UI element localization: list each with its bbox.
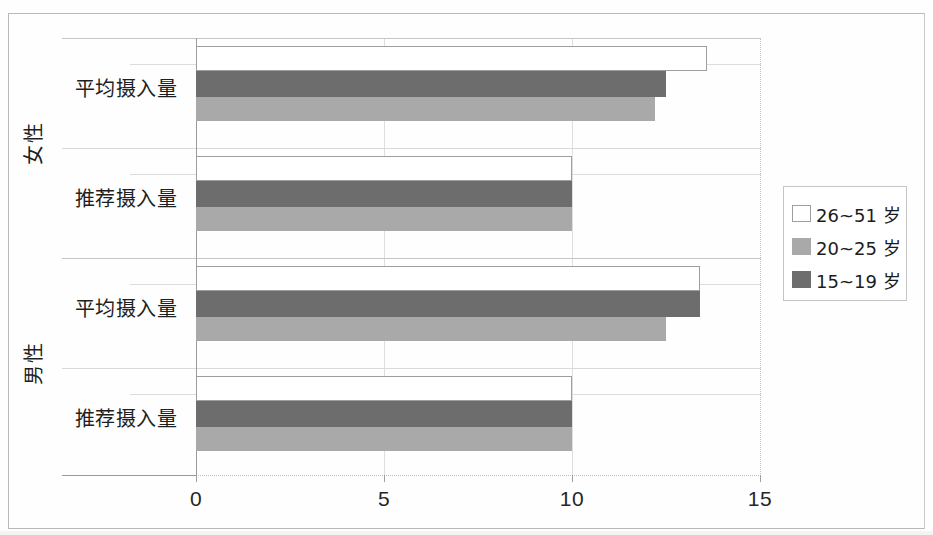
legend-label-26-51: 26~51 岁 (816, 201, 901, 227)
plot-right-border (760, 38, 761, 476)
category-label-male-average: 平均摄入量 (60, 293, 192, 322)
x-tick-label-0: 0 (166, 487, 226, 511)
bar-male-average-20-25 (196, 317, 666, 341)
bar-female-average-26-51 (196, 46, 707, 71)
chart-legend: 26~51 岁 20~25 岁 15~19 岁 (783, 186, 907, 301)
x-tick-label-10: 10 (542, 487, 602, 511)
bar-male-recommended-20-25 (196, 427, 572, 451)
x-tick-label-15: 15 (730, 487, 790, 511)
bar-chart-figure: 平均摄入量 推荐摄入量 平均摄入量 推荐摄入量 女性 男性 0 5 10 15 … (0, 0, 933, 535)
bar-male-recommended-15-19 (196, 401, 572, 427)
legend-swatch-icon-20-25 (792, 238, 811, 255)
legend-item-20-25: 20~25 岁 (792, 230, 906, 263)
category-label-male-recommended: 推荐摄入量 (60, 403, 192, 432)
x-tick-10 (572, 475, 573, 482)
legend-item-15-19: 15~19 岁 (792, 263, 906, 296)
category-separator-gender (62, 258, 761, 259)
bar-female-average-15-19 (196, 71, 666, 97)
bar-male-average-26-51 (196, 266, 700, 291)
bar-female-recommended-20-25 (196, 207, 572, 231)
bar-female-recommended-26-51 (196, 156, 572, 181)
category-separator-2 (62, 368, 761, 369)
x-axis-line (62, 475, 196, 476)
x-tick-0 (196, 475, 197, 482)
bar-female-average-20-25 (196, 97, 655, 121)
legend-swatch-icon-26-51 (792, 205, 811, 222)
legend-swatch-icon-15-19 (792, 271, 811, 288)
plot-bottom-border (196, 475, 761, 476)
x-tick-15 (760, 475, 761, 482)
group-label-male: 男性 (18, 293, 47, 433)
scan-bottom-edge (0, 531, 933, 535)
group-label-female: 女性 (18, 73, 47, 213)
bar-male-average-15-19 (196, 291, 700, 317)
x-tick-5 (384, 475, 385, 482)
category-separator-top (62, 38, 761, 39)
category-separator-1 (62, 148, 761, 149)
category-label-female-recommended: 推荐摄入量 (60, 183, 192, 212)
bar-female-recommended-15-19 (196, 181, 572, 207)
figure-frame-right-edge (924, 13, 925, 529)
bar-male-recommended-26-51 (196, 376, 572, 401)
category-label-female-average: 平均摄入量 (60, 73, 192, 102)
x-tick-label-5: 5 (354, 487, 414, 511)
legend-item-26-51: 26~51 岁 (792, 197, 906, 230)
legend-label-20-25: 20~25 岁 (816, 234, 901, 260)
legend-label-15-19: 15~19 岁 (816, 267, 901, 293)
